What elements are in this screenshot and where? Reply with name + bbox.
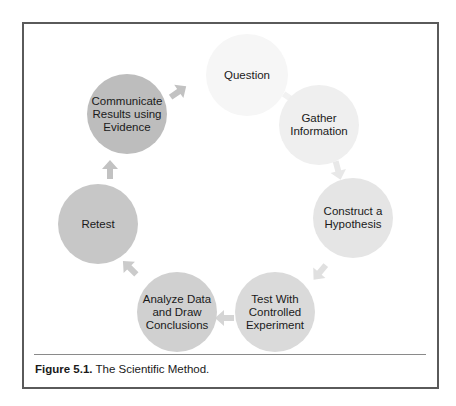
node-label: Communicate Results using Evidence [92, 95, 163, 134]
node-label: Retest [81, 218, 114, 231]
node-label: Analyze Data and Draw Conclusions [143, 293, 211, 332]
figure-caption: Figure 5.1. The Scientific Method. [35, 363, 209, 375]
node-question: Question [206, 34, 288, 116]
figure-title: The Scientific Method. [93, 363, 210, 375]
arrow-icon [166, 80, 191, 104]
arrow-icon [307, 260, 331, 285]
node-label: Test With Controlled Experiment [246, 293, 304, 332]
arrow-icon [215, 310, 234, 326]
node-communicate-results: Communicate Results using Evidence [87, 74, 167, 154]
figure-number: Figure 5.1. [35, 363, 93, 375]
arrow-icon [117, 255, 142, 280]
node-test-controlled-experiment: Test With Controlled Experiment [235, 272, 315, 352]
node-construct-hypothesis: Construct a Hypothesis [313, 178, 393, 258]
caption-divider [34, 354, 426, 355]
node-label: Question [224, 69, 270, 82]
node-label: Construct a Hypothesis [324, 205, 383, 231]
node-label: Gather Information [290, 112, 348, 138]
node-gather-information: Gather Information [279, 85, 359, 165]
arrow-icon [102, 160, 118, 179]
node-analyze-data: Analyze Data and Draw Conclusions [137, 272, 217, 352]
node-retest: Retest [58, 184, 138, 264]
